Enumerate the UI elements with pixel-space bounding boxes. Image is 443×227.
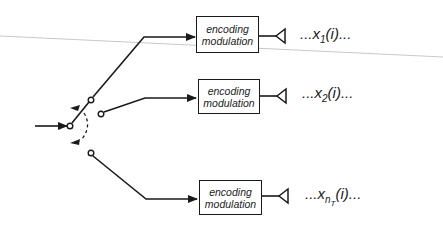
- switch-pivot: [67, 123, 73, 129]
- branch-3-line: [93, 156, 197, 199]
- arc-arrow-down: [70, 139, 80, 145]
- encoding-modulation-block-3: encoding modulation: [199, 180, 262, 215]
- block-3-line1: encoding: [209, 186, 252, 198]
- contact-3: [88, 150, 94, 156]
- block-3-line2: modulation: [205, 198, 256, 210]
- signal-label-2: ...x2(i)...: [302, 84, 353, 104]
- block-1-line2: modulation: [202, 35, 253, 47]
- rotation-arc: [82, 113, 88, 139]
- antenna-icon-2: [277, 89, 286, 103]
- encoding-modulation-block-2: encoding modulation: [198, 79, 260, 114]
- antenna-icon-3: [279, 189, 288, 203]
- block-2-line2: modulation: [203, 97, 254, 109]
- encoding-modulation-block-1: encoding modulation: [196, 16, 259, 53]
- signal-label-1: ...x1(i)...: [300, 25, 351, 45]
- contact-1: [88, 97, 94, 103]
- block-1-line1: encoding: [206, 23, 249, 35]
- branch-1-line: [93, 37, 195, 97]
- arc-arrow-up: [70, 105, 80, 111]
- branch-2-line: [104, 98, 196, 112]
- block-2-line1: encoding: [208, 85, 251, 97]
- signal-label-n: ...xnT(i)...: [305, 185, 361, 208]
- antenna-icon-1: [276, 29, 285, 43]
- contact-2: [98, 111, 104, 117]
